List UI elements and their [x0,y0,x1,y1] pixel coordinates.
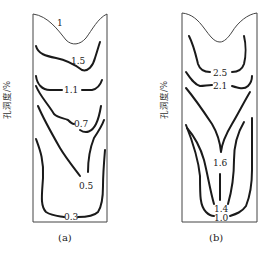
contour-b-2.1-right [232,76,252,88]
contour-label: 1.5 [71,56,86,66]
contour-b-2.5-left [189,36,210,72]
contour-label: 1.6 [213,158,228,168]
panel-b-caption: (b) [209,232,223,243]
y-axis-label-b: 孔洞度/% [159,81,169,119]
contour-label: 1.1 [64,85,78,95]
y-axis-label-a: 孔洞度/% [2,81,12,119]
contour-b-1.6 [186,88,250,152]
contour-label: 0.3 [64,212,79,222]
contour-a-0.3 [36,139,105,217]
contour-label: 2.5 [213,68,228,78]
contour-a-1.5 [36,42,100,70]
panel-a-caption: (a) [58,232,72,243]
porosity-contour-figure: 1 1.5 1.1 0.7 0.5 0.3 (a) 孔洞度/% 2.5 2.1 … [0,0,266,258]
contour-a-0.5-right [88,120,104,172]
contour-b-2.5-right [232,36,246,72]
contour-label: 2.1 [213,81,227,91]
contour-label: 1.0 [214,213,229,223]
contour-label: 1 [57,18,63,28]
contour-label: 0.5 [79,181,94,191]
panel-a: 1 1.5 1.1 0.7 0.5 0.3 (a) [33,14,107,243]
panel-b: 2.5 2.1 1.6 1.4 1.0 (b) [182,13,257,243]
contour-label: 0.7 [74,119,89,129]
contour-b-2.1-left [186,72,212,86]
